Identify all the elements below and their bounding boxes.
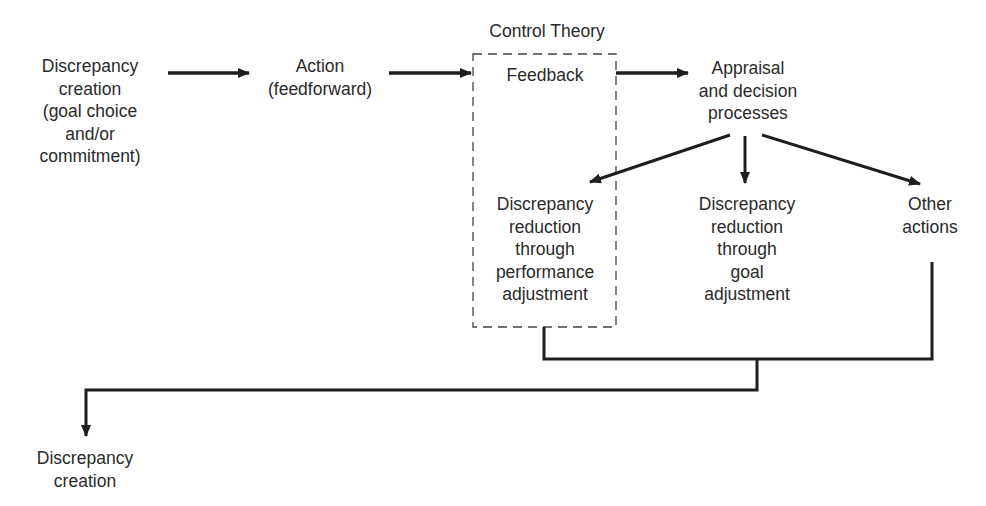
node-perf-adjustment: Discrepancy reduction through performanc… (476, 193, 614, 306)
node-action: Action (feedforward) (252, 55, 388, 100)
node-feedback: Feedback (476, 64, 614, 87)
node-discrepancy-creation-end: Discrepancy creation (10, 447, 160, 492)
node-other-actions: Other actions (880, 193, 980, 238)
group-title-control-theory: Control Theory (462, 20, 632, 43)
node-goal-adjustment: Discrepancy reduction through goal adjus… (680, 193, 814, 306)
loop-connector-lower (86, 359, 757, 436)
node-discrepancy-creation-start: Discrepancy creation (goal choice and/or… (20, 55, 160, 168)
node-appraisal: Appraisal and decision processes (680, 57, 816, 125)
arrow-appraisal-to-perf (590, 135, 730, 182)
arrow-appraisal-to-other (762, 135, 920, 184)
